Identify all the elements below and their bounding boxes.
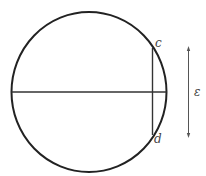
arrow-down-icon	[187, 133, 190, 138]
epsilon-double-arrow	[187, 46, 190, 138]
diagram-canvas: c d ε	[0, 0, 206, 176]
arrow-up-icon	[187, 46, 190, 51]
label-epsilon: ε	[194, 85, 200, 99]
label-c: c	[155, 36, 162, 50]
label-d: d	[154, 132, 162, 146]
